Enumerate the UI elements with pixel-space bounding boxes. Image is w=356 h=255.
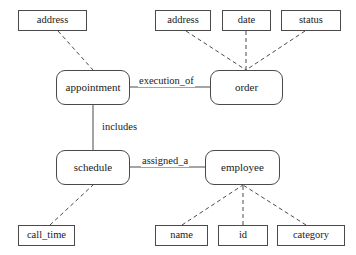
relationship-label-assigned_a: assigned_a bbox=[141, 156, 189, 167]
attribute-node-employee_id[interactable]: id bbox=[218, 225, 268, 246]
attribute-node-schedule_call_time[interactable]: call_time bbox=[18, 225, 75, 246]
attribute-node-order_date[interactable]: date bbox=[222, 10, 271, 31]
attribute-edge-schedule_call_time bbox=[50, 185, 93, 225]
er-diagram-canvas: appointmentorderscheduleemployeeaddressa… bbox=[0, 0, 356, 255]
attribute-node-appointment_address[interactable]: address bbox=[18, 10, 87, 31]
relationship-label-includes: includes bbox=[101, 122, 138, 133]
entity-node-order[interactable]: order bbox=[210, 70, 283, 105]
diagram-edge-layer bbox=[0, 0, 356, 255]
attribute-edge-appointment_address bbox=[58, 31, 93, 70]
attribute-edge-order_status bbox=[246, 31, 305, 70]
attribute-edge-employee_name bbox=[182, 185, 243, 225]
attribute-node-employee_name[interactable]: name bbox=[155, 225, 208, 246]
attribute-node-order_status[interactable]: status bbox=[281, 10, 341, 31]
relationship-label-execution_of: execution_of bbox=[138, 76, 195, 87]
attribute-edge-employee_category bbox=[243, 185, 306, 225]
entity-node-employee[interactable]: employee bbox=[205, 150, 280, 185]
entity-node-schedule[interactable]: schedule bbox=[56, 150, 130, 185]
attribute-edge-group bbox=[50, 31, 306, 225]
entity-node-appointment[interactable]: appointment bbox=[56, 70, 130, 105]
attribute-edge-order_address bbox=[186, 31, 246, 70]
attribute-node-employee_category[interactable]: category bbox=[277, 225, 345, 246]
attribute-node-order_address[interactable]: address bbox=[155, 10, 211, 31]
